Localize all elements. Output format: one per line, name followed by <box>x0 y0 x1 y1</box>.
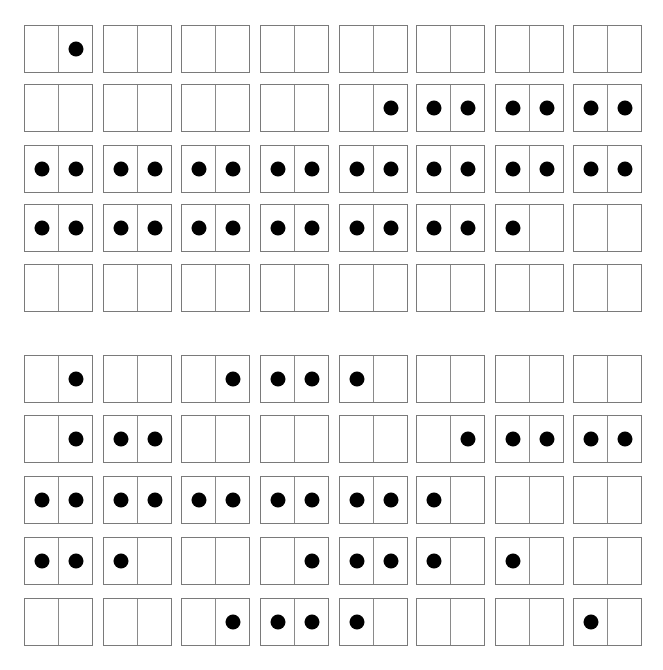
two-cell-frame <box>181 537 250 585</box>
frame-cell-right <box>530 146 563 192</box>
frame-cell-left <box>261 538 295 584</box>
frame-cell-right <box>216 477 249 523</box>
frame-cell-right <box>530 85 563 131</box>
frame-cell-left <box>574 146 608 192</box>
dot-icon <box>304 372 319 387</box>
frame-cell-left <box>104 205 138 251</box>
dot-icon <box>505 101 520 116</box>
frame-cell-right <box>295 205 328 251</box>
dot-icon <box>383 162 398 177</box>
frame-cell-left <box>182 416 216 462</box>
dot-icon <box>270 493 285 508</box>
frame-cell-right <box>59 85 92 131</box>
dot-icon <box>383 221 398 236</box>
frame-cell-right <box>295 356 328 402</box>
two-cell-frame <box>573 476 642 524</box>
frame-cell-left <box>496 146 530 192</box>
dot-icon <box>113 221 128 236</box>
frame-cell-right <box>608 26 641 72</box>
frame-cell-right <box>374 356 407 402</box>
frame-cell-right <box>59 477 92 523</box>
frame-cell-left <box>340 356 374 402</box>
frame-cell-left <box>574 538 608 584</box>
frame-cell-right <box>374 599 407 645</box>
two-cell-frame <box>416 598 485 646</box>
two-cell-frame <box>573 598 642 646</box>
two-cell-frame <box>103 355 172 403</box>
dot-icon <box>460 162 475 177</box>
frame-cell-left <box>104 538 138 584</box>
frame-cell-right <box>295 85 328 131</box>
dot-icon <box>34 162 49 177</box>
frame-cell-right <box>530 538 563 584</box>
two-cell-frame <box>24 264 93 312</box>
dot-icon <box>426 493 441 508</box>
frame-cell-left <box>261 265 295 311</box>
frame-cell-right <box>374 85 407 131</box>
frame-cell-left <box>340 416 374 462</box>
two-cell-frame <box>495 355 564 403</box>
two-cell-frame <box>416 145 485 193</box>
frame-cell-left <box>417 85 451 131</box>
dot-icon <box>147 162 162 177</box>
two-cell-frame <box>181 204 250 252</box>
dot-icon <box>225 372 240 387</box>
frame-cell-left <box>25 538 59 584</box>
two-cell-frame <box>181 145 250 193</box>
frame-cell-left <box>417 416 451 462</box>
two-cell-frame <box>573 264 642 312</box>
dot-icon <box>191 162 206 177</box>
two-cell-frame <box>260 25 329 73</box>
frame-cell-right <box>374 26 407 72</box>
dot-icon <box>68 42 83 57</box>
two-cell-frame <box>181 25 250 73</box>
two-cell-frame <box>181 264 250 312</box>
frame-cell-left <box>417 146 451 192</box>
frame-cell-left <box>261 205 295 251</box>
dot-icon <box>505 221 520 236</box>
frame-cell-right <box>608 356 641 402</box>
frame-cell-left <box>340 265 374 311</box>
frame-cell-left <box>496 265 530 311</box>
two-cell-frame <box>103 264 172 312</box>
two-cell-frame <box>260 355 329 403</box>
frame-cell-right <box>608 477 641 523</box>
frame-cell-left <box>104 599 138 645</box>
two-cell-frame <box>24 537 93 585</box>
frame-cell-right <box>530 205 563 251</box>
two-cell-frame <box>339 598 408 646</box>
two-cell-frame <box>181 355 250 403</box>
two-cell-frame <box>103 537 172 585</box>
two-cell-frame <box>24 415 93 463</box>
two-cell-frame <box>416 537 485 585</box>
two-cell-frame <box>416 476 485 524</box>
frame-cell-left <box>574 265 608 311</box>
frame-cell-right <box>216 265 249 311</box>
dot-icon <box>147 493 162 508</box>
two-cell-frame <box>103 476 172 524</box>
frame-cell-left <box>340 146 374 192</box>
two-cell-frame <box>416 25 485 73</box>
frame-cell-left <box>104 477 138 523</box>
frame-cell-right <box>138 477 171 523</box>
frame-cell-right <box>530 599 563 645</box>
frame-cell-left <box>574 416 608 462</box>
two-cell-frame <box>339 264 408 312</box>
two-cell-frame <box>260 84 329 132</box>
frame-cell-left <box>496 356 530 402</box>
dot-icon <box>505 554 520 569</box>
dot-icon <box>113 493 128 508</box>
two-cell-frame <box>573 537 642 585</box>
frame-cell-right <box>138 356 171 402</box>
frame-cell-right <box>138 416 171 462</box>
frame-cell-left <box>104 146 138 192</box>
dot-icon <box>539 162 554 177</box>
frame-cell-right <box>608 265 641 311</box>
dot-icon <box>349 615 364 630</box>
frame-cell-left <box>182 146 216 192</box>
frame-cell-left <box>182 26 216 72</box>
two-cell-frame <box>260 264 329 312</box>
dot-icon <box>34 554 49 569</box>
two-cell-frame <box>573 84 642 132</box>
frame-cell-right <box>216 599 249 645</box>
